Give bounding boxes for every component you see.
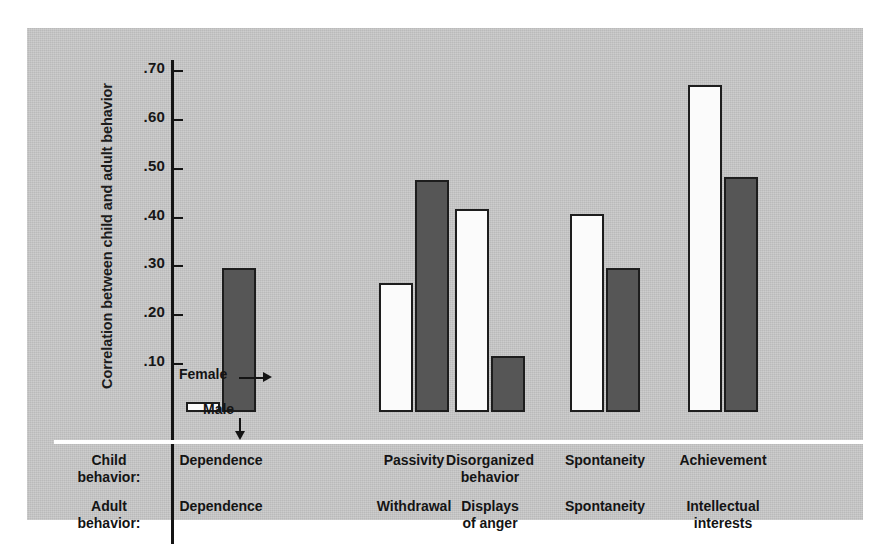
child-behavior-label-4: Achievement [638, 452, 808, 469]
child-row-label-line2: behavior: [54, 469, 164, 486]
child-label-line1: Dependence [136, 452, 306, 469]
adult-behavior-label-4: Intellectualinterests [638, 498, 808, 532]
y-tick-mark [174, 119, 183, 121]
male-annotation-label: Male [203, 401, 234, 417]
adult-label-line2: of anger [405, 515, 575, 532]
baseline-rule [54, 440, 890, 444]
bar-female-achievement [724, 177, 758, 412]
y-tick-mark [174, 363, 183, 365]
adult-label-line1: Intellectual [638, 498, 808, 515]
bar-female-disorganized-behavior [491, 356, 525, 412]
female-annotation-label: Female [179, 366, 227, 382]
child-behavior-label-0: Dependence [136, 452, 306, 469]
bar-male-disorganized-behavior [455, 209, 489, 412]
y-tick-label: .40 [105, 206, 165, 223]
female-arrow-icon [263, 372, 272, 382]
y-axis-line [171, 60, 174, 544]
adult-label-line2: interests [638, 515, 808, 532]
bar-male-achievement [688, 85, 722, 412]
chart-panel: Correlation between child and adult beha… [27, 28, 863, 520]
y-tick-mark [174, 314, 183, 316]
y-tick-mark [174, 168, 183, 170]
y-tick-label: .50 [105, 157, 165, 174]
child-label-line1: Achievement [638, 452, 808, 469]
bar-female-passivity [415, 180, 449, 412]
adult-label-line1: Dependence [136, 498, 306, 515]
adult-behavior-label-0: Dependence [136, 498, 306, 515]
bar-female-spontaneity [606, 268, 640, 412]
child-label-line2: behavior [405, 469, 575, 486]
male-arrow-icon [235, 431, 245, 440]
y-tick-mark [174, 265, 183, 267]
y-tick-label: .60 [105, 108, 165, 125]
figure-root: Correlation between child and adult beha… [0, 0, 894, 547]
female-arrow-line [239, 377, 265, 379]
adult-row-label-line2: behavior: [54, 515, 164, 532]
y-tick-label: .10 [105, 352, 165, 369]
y-tick-label: .70 [105, 59, 165, 76]
y-tick-mark [174, 70, 183, 72]
y-tick-mark [174, 217, 183, 219]
bar-male-passivity [379, 283, 413, 412]
bar-female-dependence [222, 268, 256, 412]
y-tick-label: .30 [105, 254, 165, 271]
bar-male-spontaneity [570, 214, 604, 412]
y-tick-label: .20 [105, 303, 165, 320]
